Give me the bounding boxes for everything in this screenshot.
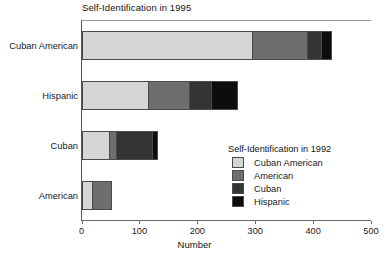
bar-segment-hispanic — [211, 81, 239, 110]
x-axis-title: Number — [0, 239, 389, 250]
bar-segment-cuban-american — [82, 181, 92, 210]
y-axis-label-cuban: Cuban — [51, 141, 78, 151]
legend-item-american[interactable]: American — [228, 169, 331, 182]
x-axis-line — [81, 220, 371, 221]
x-tick-200 — [197, 221, 198, 224]
x-tick-label-300: 300 — [248, 226, 263, 236]
bar-american — [82, 181, 112, 210]
x-tick-0 — [82, 221, 83, 224]
x-tick-300 — [255, 221, 256, 224]
legend-item-cuban-american[interactable]: Cuban American — [228, 156, 331, 169]
x-tick-100 — [139, 221, 140, 224]
legend-swatch-icon — [232, 157, 244, 168]
x-tick-label-500: 500 — [363, 226, 378, 236]
bar-cuban — [82, 131, 158, 160]
bar-segment-american — [109, 131, 116, 160]
legend: Self-Identification in 1992 Cuban Americ… — [228, 144, 331, 208]
x-tick-label-0: 0 — [79, 226, 84, 236]
bar-segment-hispanic — [152, 131, 158, 160]
x-tick-label-200: 200 — [190, 226, 205, 236]
legend-item-cuban[interactable]: Cuban — [228, 182, 331, 195]
bar-cuban-american — [82, 31, 332, 60]
x-tick-label-400: 400 — [305, 226, 320, 236]
legend-item-label: Hispanic — [254, 197, 290, 207]
legend-swatch-icon — [232, 183, 244, 194]
y-axis-label-hispanic: Hispanic — [42, 91, 78, 101]
bar-segment-american — [252, 31, 307, 60]
legend-item-hispanic[interactable]: Hispanic — [228, 195, 331, 208]
x-tick-500 — [371, 221, 372, 224]
bar-segment-american — [92, 181, 112, 210]
bar-segment-cuban-american — [82, 31, 253, 60]
bar-segment-cuban-american — [82, 81, 149, 110]
bar-segment-hispanic — [321, 31, 332, 60]
x-tick-400 — [313, 221, 314, 224]
legend-swatch-icon — [232, 170, 244, 181]
bar-segment-cuban — [307, 31, 320, 60]
bar-segment-cuban-american — [82, 131, 110, 160]
legend-item-label: American — [254, 171, 293, 181]
bar-hispanic — [82, 81, 239, 110]
legend-item-label: Cuban — [254, 184, 281, 194]
bar-segment-cuban — [116, 131, 152, 160]
x-tick-label-100: 100 — [132, 226, 147, 236]
stacked-bar-chart: Self-Identification in 1995 Cuban Americ… — [0, 0, 389, 255]
bar-segment-cuban — [189, 81, 211, 110]
bar-segment-american — [148, 81, 189, 110]
y-axis-label-american: American — [39, 191, 78, 201]
y-axis-label-cuban-american: Cuban American — [9, 41, 78, 51]
legend-swatch-icon — [232, 196, 244, 207]
legend-item-label: Cuban American — [254, 158, 323, 168]
chart-title: Self-Identification in 1995 — [82, 2, 191, 13]
legend-title: Self-Identification in 1992 — [228, 144, 331, 154]
